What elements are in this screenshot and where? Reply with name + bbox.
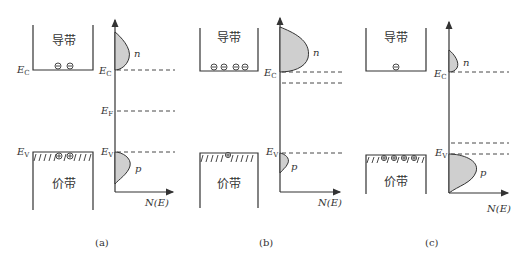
n-distribution [115, 32, 129, 70]
conduction-band-label: 导带 [384, 31, 408, 45]
p-distribution [449, 154, 477, 193]
n-distribution [449, 50, 458, 72]
n-distribution [280, 27, 309, 72]
axis-label-ne: N(E) [486, 203, 511, 214]
axis-label-ne: N(E) [317, 197, 342, 208]
conduction-band-label: 导带 [217, 31, 241, 45]
n-label: n [313, 47, 319, 58]
n-label: n [134, 48, 140, 59]
ev-label-axis: EV [265, 146, 279, 159]
ev-label-axis: EV [100, 146, 114, 159]
ec-label-axis: EC [433, 68, 447, 81]
electron-icons [55, 63, 73, 69]
valence-band-label: 价带 [52, 177, 76, 191]
p-label: p [135, 163, 142, 174]
hole-icons [225, 152, 230, 157]
p-label: p [291, 161, 298, 172]
panel-b: 导带 价带 n p EC EV N(E) (b) [200, 18, 342, 248]
p-label: p [480, 167, 487, 178]
valence-hatching [34, 154, 91, 161]
n-label: n [463, 57, 469, 68]
ec-label-axis: EC [98, 65, 112, 78]
panel-a: 导带 EC 价带 EV n p EC EF EV N(E) [16, 20, 175, 248]
panel-c: 导带 价带 n p EC EV N(E) (c) [366, 22, 511, 248]
ec-label-axis: EC [263, 67, 277, 80]
ev-label-left: EV [16, 146, 30, 159]
valence-band-label: 价带 [217, 177, 241, 191]
electron-icons [393, 64, 399, 70]
band-diagram-figure: 导带 EC 价带 EV n p EC EF EV N(E) [0, 0, 527, 269]
axis-label-ne: N(E) [144, 197, 169, 208]
electron-icons [211, 64, 248, 70]
caption-c: (c) [425, 237, 439, 248]
ev-label-axis: EV [434, 147, 448, 160]
caption-b: (b) [259, 237, 273, 248]
caption-a: (a) [95, 237, 109, 248]
ec-label-left: EC [16, 64, 30, 77]
p-distribution [280, 153, 288, 173]
valence-band-label: 价带 [384, 175, 408, 189]
p-distribution [115, 152, 130, 184]
conduction-band-label: 导带 [52, 34, 76, 48]
ef-label-axis: EF [100, 105, 113, 118]
